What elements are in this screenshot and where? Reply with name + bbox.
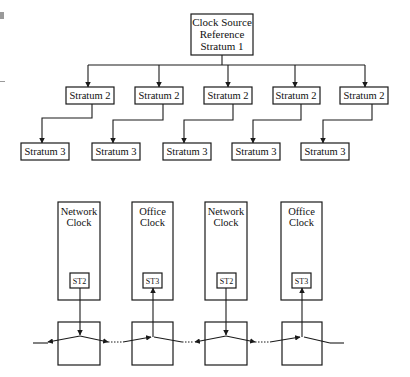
clock-label-line-2: Clock: [140, 217, 166, 228]
clock-label-line-1: Network: [61, 206, 98, 217]
stratum-unit-label: ST3: [295, 277, 308, 286]
clock-label-line-2: Clock: [289, 217, 315, 228]
stratum-3-label: Stratum 3: [166, 146, 207, 157]
stratum-3-label: Stratum 3: [24, 146, 65, 157]
clock-distribution-diagram: Clock Source Reference Stratum 1 Stratum…: [0, 0, 410, 377]
stratum-3-label: Stratum 3: [304, 146, 345, 157]
arrow-icon: [253, 104, 301, 143]
clock-label-line-1: Office: [288, 206, 315, 217]
clock-label-line-2: Clock: [66, 217, 92, 228]
stratum-3-box: Stratum 3: [232, 143, 280, 160]
root-label-line-1: Clock Source: [192, 16, 252, 28]
stratum-2-box: Stratum 2: [204, 87, 252, 104]
clock-label-line-1: Network: [208, 206, 245, 217]
stratum-unit-label: ST3: [146, 277, 159, 286]
stratum-1-reference-box: Clock Source Reference Stratum 1: [191, 14, 253, 55]
root-label-line-2: Reference: [200, 28, 245, 40]
stratum-3-box: Stratum 3: [163, 143, 211, 160]
stratum-unit-label: ST2: [73, 277, 86, 286]
stratum-2-box: Stratum 2: [273, 87, 320, 104]
office-clock-box: Office Clock ST3: [281, 202, 322, 300]
network-clock-chain: Network Clock ST2 Office Clock ST3 Netwo…: [33, 202, 344, 365]
arrow-icon: [184, 104, 233, 143]
stratum-3-label: Stratum 3: [95, 146, 136, 157]
stratum-unit-label: ST2: [220, 277, 233, 286]
network-clock-box: Network Clock ST2: [205, 202, 247, 300]
stratum-3-box: Stratum 3: [301, 143, 349, 160]
network-clock-box: Network Clock ST2: [58, 202, 100, 300]
clock-label-line-1: Office: [139, 206, 166, 217]
arrow-icon: [113, 104, 163, 143]
stratum-2-box: Stratum 2: [340, 87, 388, 104]
stratum-3-box: Stratum 3: [92, 143, 140, 160]
stratum-hierarchy: Clock Source Reference Stratum 1 Stratum…: [21, 14, 388, 160]
stratum-2-box: Stratum 2: [66, 87, 114, 104]
office-clock-box: Office Clock ST3: [132, 202, 173, 300]
stratum-2-box: Stratum 2: [135, 87, 183, 104]
arrow-icon: [42, 104, 92, 143]
clock-label-line-2: Clock: [213, 217, 239, 228]
scan-mark: [0, 81, 5, 82]
stratum-2-label: Stratum 2: [343, 90, 384, 101]
stratum-2-label: Stratum 2: [69, 90, 110, 101]
scan-mark: [0, 12, 4, 19]
stratum-2-label: Stratum 2: [207, 90, 248, 101]
stratum-2-label: Stratum 2: [138, 90, 179, 101]
root-label-line-3: Stratum 1: [200, 40, 243, 52]
stratum-3-box: Stratum 3: [21, 143, 69, 160]
stratum-3-label: Stratum 3: [235, 146, 276, 157]
node-box: [58, 322, 100, 365]
stratum-2-label: Stratum 2: [275, 90, 316, 101]
arrow-icon: [323, 104, 372, 143]
